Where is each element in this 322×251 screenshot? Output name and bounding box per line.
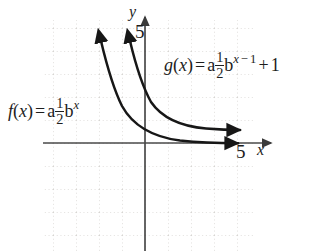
x-axis-label: x: [257, 142, 264, 158]
f-denominator: 2: [55, 112, 64, 126]
g-function-name: g: [164, 55, 173, 75]
f-argument: x: [19, 101, 27, 121]
function-label-g: g(x)=a12bx−1+1: [164, 50, 280, 81]
g-exponent-number: 1: [250, 52, 257, 66]
g-plus: +: [257, 55, 271, 75]
function-label-f: f(x)=a12bx: [8, 96, 79, 127]
g-numerator: 1: [215, 50, 224, 64]
g-fraction: 12: [215, 50, 224, 81]
g-exponent-operator: −: [239, 52, 250, 66]
f-fraction: 12: [55, 96, 64, 127]
g-constant: 1: [271, 55, 280, 75]
g-argument: x: [179, 55, 187, 75]
f-equals: =: [33, 101, 47, 121]
g-denominator: 2: [215, 66, 224, 80]
math-figure: y x 5 5 f(x)=a12bx g(x)=a12bx−1+1: [0, 0, 322, 251]
g-exponent: x−1: [233, 52, 256, 66]
g-equals: =: [193, 55, 207, 75]
x-tick-label-5: 5: [236, 142, 246, 161]
g-base-close: b: [224, 55, 233, 75]
y-axis-label: y: [129, 4, 136, 20]
f-numerator: 1: [55, 96, 64, 110]
g-base-open: a: [207, 55, 215, 75]
f-base-open: a: [47, 101, 55, 121]
y-tick-label-5: 5: [135, 22, 145, 41]
f-exponent: x: [73, 98, 79, 112]
